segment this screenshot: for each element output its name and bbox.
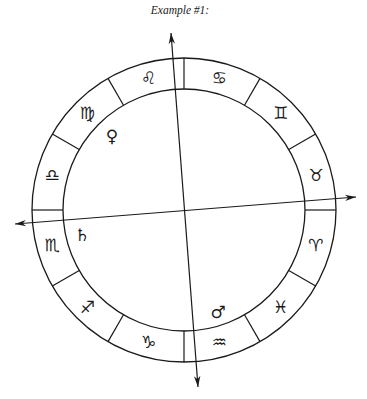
planets-group: ♀♄♂ (74, 126, 225, 322)
sign-aries-icon: ♈︎ (308, 235, 323, 255)
sign-divider (245, 315, 261, 342)
planet-saturn-icon: ♄ (74, 225, 89, 245)
sign-divider (289, 134, 316, 150)
sign-cancer-icon: ♋︎ (212, 68, 227, 88)
sign-divider (52, 134, 79, 150)
zodiac-wheel: ♉︎♊︎♋︎♌︎♍︎♎︎♏︎♐︎♑︎♒︎♓︎♈︎ ♀♄♂ (0, 0, 367, 399)
sign-leo-icon: ♌︎ (141, 68, 156, 88)
sign-libra-icon: ♎︎ (45, 165, 60, 185)
planet-venus-icon: ♀ (106, 126, 118, 146)
sign-pisces-icon: ♓︎ (273, 297, 288, 317)
planet-mars-icon: ♂ (210, 302, 225, 322)
sign-divider (245, 78, 261, 105)
sign-capricorn-icon: ♑︎ (141, 332, 156, 352)
sign-sagittarius-icon: ♐︎ (80, 297, 95, 317)
sign-divider (52, 271, 79, 287)
sign-divider (108, 315, 124, 342)
sign-divider (289, 271, 316, 287)
sign-divider (108, 78, 124, 105)
sign-taurus-icon: ♉︎ (308, 165, 323, 185)
sign-virgo-icon: ♍︎ (80, 103, 95, 123)
sign-scorpio-icon: ♏︎ (45, 235, 60, 255)
sign-gemini-icon: ♊︎ (273, 103, 288, 123)
sign-aquarius-icon: ♒︎ (212, 332, 227, 352)
